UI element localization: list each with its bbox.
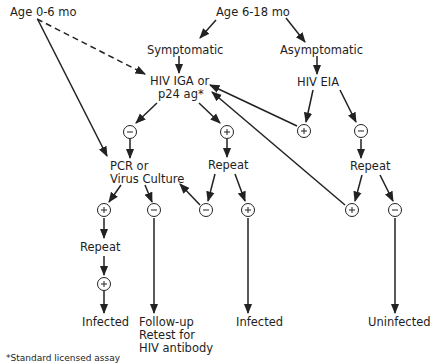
node-repeat-left: Repeat [80,241,120,254]
result-sign-nodes [98,125,402,291]
edge-midneg-to-pcr [180,184,200,205]
edge-repeatright-to-pos [355,175,362,201]
pos-circle-repeat-mid [242,204,255,217]
edge-eia-to-neg [340,90,356,122]
node-age-0-6: Age 0-6 mo [10,6,77,19]
edge-age618-to-symptomatic [200,20,216,38]
node-infected-left: Infected [82,316,129,329]
edge-eia-to-pos [306,90,313,122]
edge-eiapos-to-iga [210,85,297,126]
node-followup-line3: HIV antibody [139,342,213,355]
node-infected-mid: Infected [236,316,283,329]
node-repeat-right: Repeat [350,160,390,173]
neg-circle-repeat-mid [200,204,213,217]
neg-circle-iga [124,126,137,139]
pos-circle-pcr [98,204,111,217]
node-pcr-line2: Virus Culture [110,173,184,186]
edge-age618-to-asymptomatic [286,18,305,42]
edge-repeatmid-to-pos [235,174,245,201]
neg-circle-repeat-right [389,204,402,217]
neg-circle-pcr [148,204,161,217]
node-asymptomatic: Asymptomatic [280,44,363,57]
edge-age06-to-iga [37,19,145,74]
edge-age06-to-pcr [38,20,107,156]
edge-pcr-to-pos [109,185,121,202]
node-age-6-18: Age 6-18 mo [216,6,290,19]
pos-circle-repeat-left [98,278,111,291]
node-symptomatic: Symptomatic [147,44,223,57]
edge-iga-to-neg [136,103,157,123]
node-uninfected: Uninfected [368,316,431,329]
neg-circle-eia [355,125,368,138]
edge-rightrepeatpos-to-iga [212,92,345,205]
edge-repeatright-to-neg [380,175,393,201]
node-hiv-eia: HIV EIA [297,76,339,89]
edge-iga-to-pos [199,103,220,123]
pos-circle-iga [221,126,234,139]
footnote: *Standard licensed assay [6,352,120,363]
node-hiv-iga-line2: p24 ag* [158,88,204,101]
edge-repeatmid-to-neg [208,174,215,201]
node-repeat-mid: Repeat [208,159,248,172]
pos-circle-eia [298,125,311,138]
pos-circle-repeat-right [346,204,359,217]
edge-pcr-to-neg [145,185,152,202]
